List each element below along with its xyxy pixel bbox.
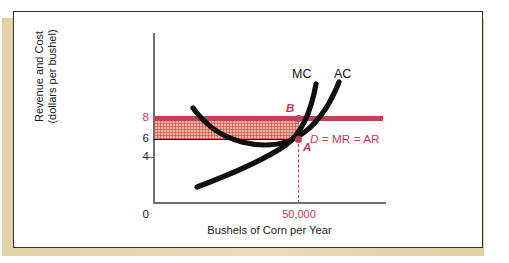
x-axis-title: Bushels of Corn per Year [153,224,386,236]
demand-eq1: = [322,132,329,146]
y-axis-title-line1: Revenue and Cost [33,12,46,142]
demand-mr-text: MR [332,132,350,146]
mc-label: MC [292,67,311,81]
figure-card: B A MC AC D = MR = AR 8 6 4 0 50,000 [13,11,483,248]
ac-label: AC [334,67,351,81]
y-tick-label-8: 8 [131,112,149,124]
point-a-dot [295,136,302,143]
y-tick-label-4: 4 [131,151,149,163]
demand-ar-text: AR [363,132,379,146]
figure-page: B A MC AC D = MR = AR 8 6 4 0 50,000 [0,0,509,263]
x-tick-label-50000: 50,000 [269,208,329,220]
plot-area: B A MC AC D = MR = AR 8 6 4 0 50,000 [14,12,482,247]
origin-label: 0 [131,209,149,221]
point-b-dot [295,115,302,122]
cost-curves [14,12,484,249]
y-axis-title: Revenue and Cost (dollars per bushel) [33,12,58,142]
demand-curve-label: D = MR = AR [310,132,380,146]
demand-d-text: D [310,132,319,146]
y-axis-title-line2: (dollars per bushel) [45,12,58,142]
point-b-label: B [286,102,294,114]
y-tick-label-6: 6 [131,133,149,145]
demand-eq2: = [354,132,361,146]
